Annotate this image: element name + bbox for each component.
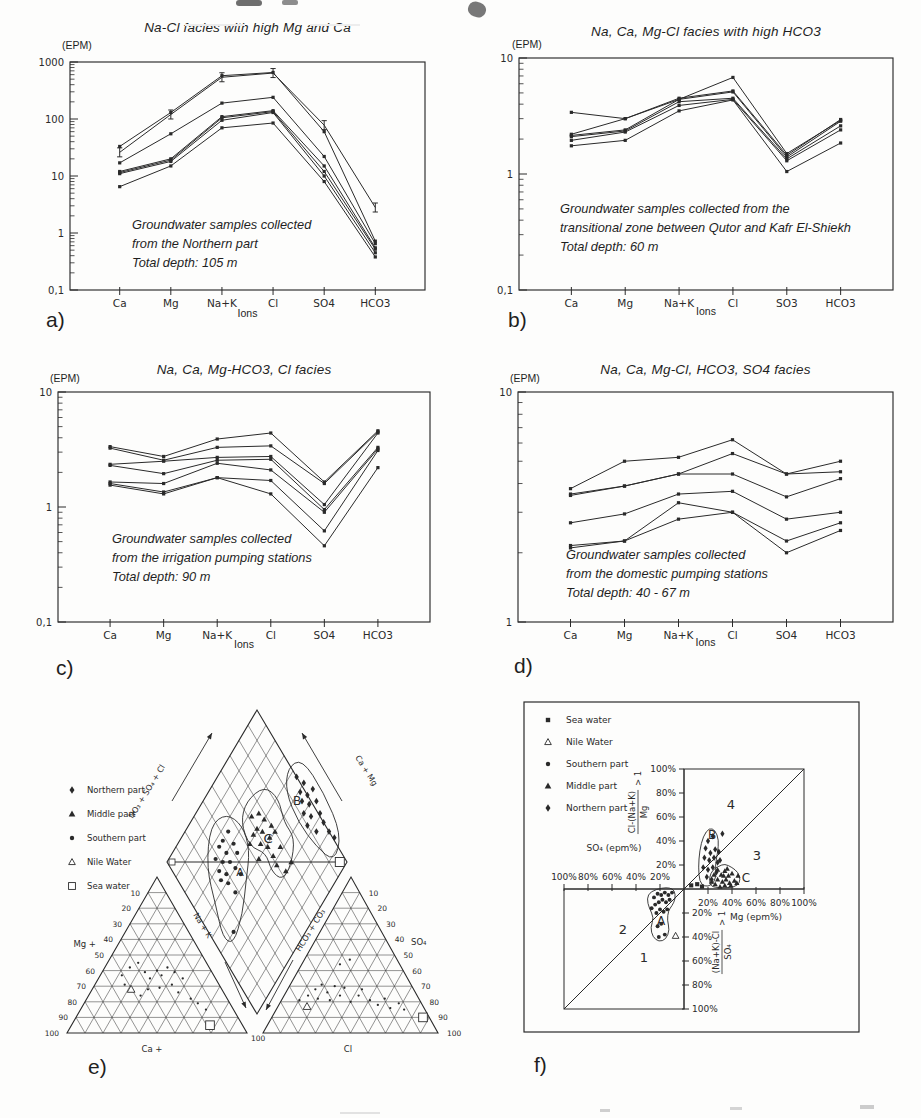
svg-text:Sea water: Sea water — [566, 715, 612, 725]
svg-text:Southern part: Southern part — [566, 759, 629, 769]
svg-text:B: B — [293, 794, 301, 808]
y-tick-label: 10 — [500, 53, 513, 64]
svg-text:> 1: > 1 — [717, 911, 727, 926]
series-b — [570, 76, 842, 173]
quadrant-legend: Sea waterNile WaterSouthern partMiddle p… — [545, 715, 629, 813]
svg-text:60%: 60% — [656, 812, 676, 822]
svg-text:90: 90 — [58, 1013, 68, 1022]
svg-text:Southern part: Southern part — [87, 833, 146, 843]
svg-text:Nile Water: Nile Water — [87, 857, 132, 867]
panel-b-letter: b) — [508, 308, 527, 332]
svg-text:70: 70 — [76, 982, 86, 991]
svg-text:4: 4 — [727, 797, 735, 812]
panel-a-xlabel: Ions — [70, 307, 425, 319]
svg-text:Northern part: Northern part — [566, 803, 628, 813]
panel-b-xlabel: Ions — [519, 305, 893, 317]
svg-text:40: 40 — [103, 935, 113, 944]
svg-text:SO₄: SO₄ — [411, 937, 427, 947]
svg-text:C: C — [742, 871, 750, 885]
panel-b-annotation: Groundwater samples collected from the t… — [560, 199, 851, 256]
svg-text:(Na+K)-Cl: (Na+K)-Cl — [711, 931, 721, 973]
svg-text:2: 2 — [619, 922, 627, 937]
scan-artifact — [236, 0, 262, 6]
y-tick-label: 10 — [499, 387, 512, 398]
svg-text:100: 100 — [45, 1029, 60, 1038]
svg-text:1: 1 — [640, 950, 648, 965]
svg-text:50: 50 — [94, 951, 104, 960]
panel-a-annotation: Groundwater samples collected from the N… — [132, 215, 311, 272]
svg-text:60%: 60% — [692, 956, 712, 966]
series-d — [569, 438, 842, 554]
svg-text:80: 80 — [430, 998, 440, 1007]
panel-a-title: Na-Cl facies with high Mg and Ca — [70, 20, 425, 35]
svg-text:60: 60 — [85, 967, 95, 976]
svg-text:SO₄ (epm%): SO₄ (epm%) — [587, 843, 642, 853]
svg-text:Middle part: Middle part — [87, 809, 136, 819]
panel-c-letter: c) — [56, 656, 74, 680]
quadrant-diagram: 20%40%60%80%100%20%40%60%80%100%20%40%60… — [524, 702, 859, 1032]
svg-text:> 1: > 1 — [633, 771, 643, 786]
svg-text:80: 80 — [67, 998, 77, 1007]
panel-e-letter: e) — [88, 1055, 107, 1079]
y-tick-label: 1000 — [39, 57, 64, 68]
panel-d-title: Na, Ca, Mg-Cl, HCO3, SO4 facies — [518, 362, 893, 377]
y-tick-label: 0,1 — [48, 285, 64, 296]
y-tick-label: 100 — [45, 114, 64, 125]
svg-text:100%: 100% — [692, 1004, 718, 1014]
schoeller-chart-d: 101CaMgNa+KClSO4HCO3 — [499, 387, 893, 642]
svg-text:40%: 40% — [656, 836, 676, 846]
panel-f-letter: f) — [534, 1053, 547, 1077]
schoeller-chart-c: 1010,1CaMgNa+KClSO4HCO3 — [36, 387, 430, 642]
svg-text:40%: 40% — [722, 898, 742, 908]
scan-artifact — [310, 24, 360, 26]
svg-text:Sea water: Sea water — [87, 881, 130, 891]
scan-artifact — [282, 0, 298, 5]
svg-text:30: 30 — [112, 920, 122, 929]
svg-text:80%: 80% — [770, 898, 790, 908]
svg-text:20%: 20% — [698, 898, 718, 908]
panel-c-y-unit: (EPM) — [50, 372, 80, 384]
svg-text:Northern part: Northern part — [87, 785, 146, 795]
panel-d-y-unit: (EPM) — [510, 372, 540, 384]
panel-d-xlabel: Ions — [518, 636, 893, 648]
panel-c-xlabel: Ions — [58, 638, 430, 650]
scan-artifact — [340, 1112, 380, 1114]
y-tick-label: 1 — [46, 502, 52, 513]
svg-text:70: 70 — [421, 982, 431, 991]
svg-text:20%: 20% — [692, 908, 712, 918]
svg-text:10: 10 — [130, 889, 140, 898]
svg-text:HCO₃ + CO₃: HCO₃ + CO₃ — [294, 908, 327, 953]
svg-text:Mg +: Mg + — [73, 939, 96, 949]
svg-text:Mg (epm%): Mg (epm%) — [730, 912, 782, 922]
svg-text:SO₄: SO₄ — [723, 944, 733, 960]
svg-text:Cl: Cl — [344, 1044, 352, 1054]
y-tick-label: 1 — [506, 617, 512, 628]
svg-text:Cl-(Na+K): Cl-(Na+K) — [627, 791, 637, 833]
svg-text:Ca +: Ca + — [142, 1044, 163, 1054]
scan-artifact — [860, 1105, 874, 1109]
svg-text:20%: 20% — [650, 872, 670, 882]
svg-text:60: 60 — [412, 967, 422, 976]
svg-text:Na + K: Na + K — [191, 911, 214, 940]
scan-artifact — [600, 1109, 610, 1112]
svg-text:40%: 40% — [692, 932, 712, 942]
svg-text:Nile Water: Nile Water — [566, 737, 613, 747]
svg-text:Ca + Mg: Ca + Mg — [353, 754, 379, 788]
axes-b: 1010,1CaMgNa+KClSO3HCO3 — [497, 53, 856, 310]
svg-text:90: 90 — [438, 1013, 448, 1022]
scan-artifact — [730, 1107, 742, 1110]
svg-text:100: 100 — [251, 1034, 266, 1043]
svg-text:80%: 80% — [656, 788, 676, 798]
axes-d: 101CaMgNa+KClSO4HCO3 — [499, 387, 855, 642]
panel-c-title: Na, Ca, Mg-HCO3, Cl facies — [58, 362, 430, 377]
y-tick-label: 1 — [58, 228, 64, 239]
y-tick-label: 10 — [51, 171, 64, 182]
panel-c-annotation: Groundwater samples collected from the i… — [112, 529, 312, 586]
svg-text:30: 30 — [386, 920, 396, 929]
panel-d-annotation: Groundwater samples collected from the d… — [566, 545, 768, 602]
panel-b-title: Na, Ca, Mg-Cl facies with high HCO3 — [519, 24, 893, 39]
scanned-figure-page: 10001001010,1CaMgNa+KClSO4HCO31010,1CaMg… — [0, 0, 921, 1118]
panel-b-y-unit: (EPM) — [512, 38, 542, 50]
piper-edge-ticks: 1010202030304040505060607070808090901001… — [45, 889, 462, 1043]
y-tick-label: 10 — [39, 387, 52, 398]
